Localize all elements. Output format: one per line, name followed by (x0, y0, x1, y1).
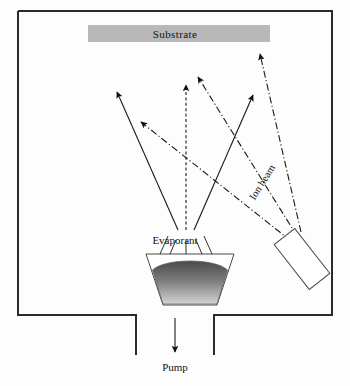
flux-arrow-right (194, 95, 253, 230)
deposition-schematic (0, 0, 350, 386)
ion-arrow-mid (198, 77, 297, 236)
ion-arrow-right (260, 54, 301, 232)
flux-arrow-left (117, 92, 178, 230)
pump-label: Pump (0, 361, 350, 373)
evaporant-melt-pool (153, 261, 228, 304)
evaporant-label: Evaporant (0, 234, 350, 246)
substrate-label: Substrate (0, 28, 350, 40)
diagram-canvas: Substrate Evaporant Ion beam Pump (0, 0, 350, 386)
